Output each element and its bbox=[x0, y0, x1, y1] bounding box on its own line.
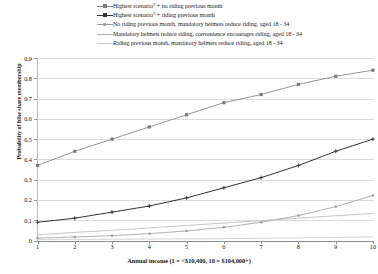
series-marker bbox=[334, 149, 338, 153]
series-marker bbox=[185, 230, 187, 232]
series-marker bbox=[371, 137, 375, 141]
data-series bbox=[38, 214, 374, 235]
series-marker bbox=[74, 236, 76, 238]
series-marker bbox=[259, 176, 263, 180]
chart-figure: Highest scenario° + no riding previous m… bbox=[0, 0, 378, 274]
series-marker bbox=[147, 204, 151, 208]
series-line bbox=[38, 70, 374, 165]
series-marker bbox=[260, 221, 262, 223]
series-marker bbox=[110, 138, 113, 141]
series-marker bbox=[222, 186, 226, 190]
series-marker bbox=[334, 75, 337, 78]
series-marker bbox=[73, 216, 77, 220]
series-marker bbox=[111, 234, 113, 236]
series-marker bbox=[36, 220, 40, 224]
series-marker bbox=[148, 125, 151, 128]
data-series bbox=[36, 137, 376, 224]
series-marker bbox=[185, 196, 189, 200]
series-marker bbox=[297, 214, 299, 216]
series-marker bbox=[260, 93, 263, 96]
series-marker bbox=[223, 226, 225, 228]
series-marker bbox=[296, 163, 300, 167]
series-line bbox=[38, 214, 374, 235]
series-marker bbox=[371, 69, 374, 72]
series-marker bbox=[36, 237, 38, 239]
series-marker bbox=[36, 164, 39, 167]
data-series bbox=[38, 237, 374, 240]
series-marker bbox=[73, 150, 76, 153]
data-series bbox=[36, 69, 375, 167]
series-marker bbox=[297, 83, 300, 86]
x-axis-title: Annual income (1 = <$10,400, 10 = $104,0… bbox=[0, 257, 378, 264]
series-marker bbox=[372, 194, 374, 196]
series-marker bbox=[222, 101, 225, 104]
series-marker bbox=[148, 232, 150, 234]
series-marker bbox=[110, 210, 114, 214]
series-marker bbox=[185, 113, 188, 116]
series-marker bbox=[335, 205, 337, 207]
series-line bbox=[38, 237, 374, 240]
series-canvas bbox=[0, 0, 378, 274]
